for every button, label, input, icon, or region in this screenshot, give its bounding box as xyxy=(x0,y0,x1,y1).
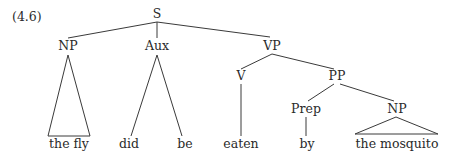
branch-aux-did xyxy=(131,55,157,136)
leaf-the-mosquito: the mosquito xyxy=(356,138,439,151)
leaf-by: by xyxy=(299,138,314,151)
leaf-the-fly: the fly xyxy=(49,138,89,151)
branch-s-np xyxy=(68,22,157,38)
leaf-eaten: eaten xyxy=(223,138,258,151)
np-triangle xyxy=(48,55,90,136)
node-v: V xyxy=(236,70,245,83)
branch-pp-prep xyxy=(308,84,334,101)
node-np1: NP xyxy=(58,40,77,53)
node-np2: NP xyxy=(387,103,406,116)
node-pp: PP xyxy=(329,70,346,83)
leaf-be: be xyxy=(177,138,192,151)
node-aux: Aux xyxy=(145,40,169,53)
branch-vp-v xyxy=(241,54,272,69)
branch-pp-np xyxy=(340,84,394,101)
leaf-did: did xyxy=(119,138,139,151)
example-number: (4.6) xyxy=(12,9,42,24)
branch-s-vp xyxy=(157,22,270,37)
np-triangle-2 xyxy=(355,117,438,134)
node-prep: Prep xyxy=(291,103,321,116)
node-vp: VP xyxy=(263,40,280,53)
branch-vp-pp xyxy=(272,54,334,69)
node-s: S xyxy=(153,8,162,21)
branch-aux-be xyxy=(157,55,182,136)
